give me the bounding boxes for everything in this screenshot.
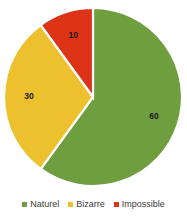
pie-slice-label-bizarre: 30 [24, 91, 34, 101]
legend-label-naturel: Naturel [30, 200, 59, 209]
legend-swatch-icon [22, 202, 27, 207]
legend-item-impossible[interactable]: Impossible [114, 200, 165, 209]
legend-swatch-icon [114, 202, 119, 207]
legend-item-bizarre[interactable]: Bizarre [68, 200, 105, 209]
legend-swatch-icon [68, 202, 73, 207]
pie-slice-label-naturel: 60 [149, 111, 159, 121]
pie-svg: 60 30 10 [0, 0, 187, 192]
legend-item-naturel[interactable]: Naturel [22, 200, 59, 209]
legend-label-bizarre: Bizarre [76, 200, 105, 209]
pie-slice-label-impossible: 10 [68, 30, 78, 40]
legend-label-impossible: Impossible [122, 200, 165, 209]
pie-plot-area: 60 30 10 [0, 0, 187, 192]
pie-chart: 60 30 10 Naturel Bizarre Impossible [0, 0, 187, 218]
chart-legend: Naturel Bizarre Impossible [0, 194, 187, 214]
